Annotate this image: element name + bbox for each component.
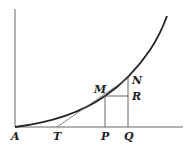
label-m: M bbox=[93, 83, 107, 96]
label-p: P bbox=[100, 130, 110, 143]
curve bbox=[15, 16, 167, 127]
label-n: N bbox=[131, 74, 143, 87]
label-t: T bbox=[53, 130, 62, 143]
label-r: R bbox=[131, 90, 141, 103]
label-q: Q bbox=[124, 130, 134, 143]
label-a: A bbox=[10, 130, 20, 143]
diagram-canvas: A T P Q M N R bbox=[0, 0, 195, 155]
tangent-line bbox=[57, 78, 128, 127]
